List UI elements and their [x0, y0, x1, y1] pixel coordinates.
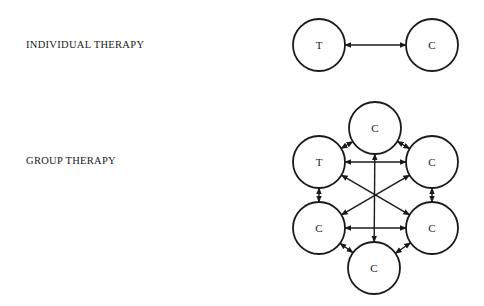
individual-node-label-t: T	[316, 39, 323, 51]
group-therapy-diagram: CTCCCC	[293, 102, 458, 294]
group-node-label-c_top: C	[371, 122, 378, 134]
individual-node-label-c: C	[428, 39, 435, 51]
group-edge-c_left_lower-c_bottom	[340, 243, 353, 252]
group-edge-c_top-c_bottom	[374, 154, 375, 242]
group-node-label-c_bottom: C	[370, 262, 377, 274]
group-edge-t-c_top	[341, 141, 353, 148]
therapy-diagram: TC CTCCCC	[0, 0, 484, 306]
group-edge-c_top-c_right_upper	[397, 141, 409, 148]
individual-therapy-diagram: TC	[293, 19, 458, 71]
group-node-label-c_right_lower: C	[428, 222, 435, 234]
group-node-label-c_right_upper: C	[428, 156, 435, 168]
group-node-label-t: T	[316, 156, 323, 168]
group-node-label-c_left_lower: C	[315, 222, 322, 234]
group-edge-c_right_lower-c_bottom	[395, 243, 410, 253]
